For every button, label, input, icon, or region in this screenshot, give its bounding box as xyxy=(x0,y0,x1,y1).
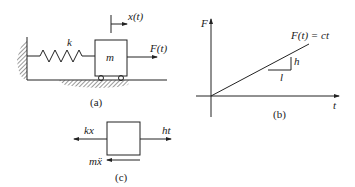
free-body-block xyxy=(107,122,140,155)
x-axis-label: t xyxy=(333,99,337,111)
slope-rise-label: h xyxy=(294,55,300,67)
y-axis-label: F xyxy=(200,17,208,29)
spring-label: k xyxy=(67,36,73,48)
displacement-label: x(t) xyxy=(127,10,144,23)
applied-force-label: ht xyxy=(162,124,172,136)
line-equation-label: F(t) = ct xyxy=(290,29,330,42)
panel-a-mass-spring-system: k m x(t) F(t) (a) xyxy=(17,10,167,109)
force-label: F(t) xyxy=(149,42,167,55)
panel-b-force-plot: F t F(t) = ct h l (b) xyxy=(196,17,339,121)
slope-run-label: l xyxy=(280,71,283,83)
ground-hatching xyxy=(58,80,130,88)
panel-b-caption: (b) xyxy=(273,108,286,121)
figure-canvas: k m x(t) F(t) (a) F t F(t) = ct h l (b) … xyxy=(0,0,355,187)
panel-a-caption: (a) xyxy=(90,96,103,109)
panel-c-caption: (c) xyxy=(115,171,128,184)
panel-c-free-body-diagram: kx ht mẍ (c) xyxy=(74,122,172,184)
wall-hatching xyxy=(17,40,27,80)
inertia-force-label: mẍ xyxy=(89,155,102,167)
mass-label: m xyxy=(106,51,114,63)
spring xyxy=(27,50,95,62)
spring-force-label: kx xyxy=(84,124,94,136)
force-line xyxy=(211,44,309,96)
